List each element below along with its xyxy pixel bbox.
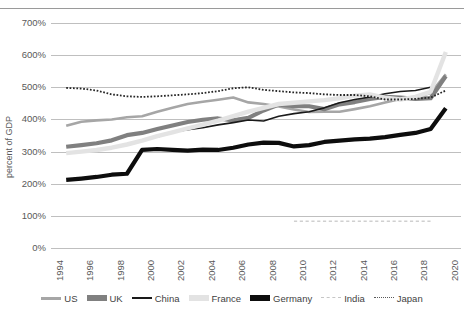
legend-swatch-china-icon xyxy=(132,293,152,303)
x-tick-label: 2004 xyxy=(207,260,217,281)
legend-label: France xyxy=(212,293,242,304)
x-tick-label: 2018 xyxy=(419,260,429,281)
legend-item-us[interactable]: US xyxy=(41,293,77,304)
legend-swatch-uk-icon xyxy=(87,293,107,303)
legend-swatch-japan-icon xyxy=(374,293,394,303)
legend-swatch-france-icon xyxy=(189,293,209,303)
x-tick-label: 2008 xyxy=(268,260,278,281)
y-tick-label: 600% xyxy=(4,50,46,60)
legend-swatch-us-icon xyxy=(41,293,61,303)
x-tick-label: 2016 xyxy=(389,260,399,281)
x-tick-label: 2006 xyxy=(237,260,247,281)
x-tick-label: 1996 xyxy=(85,260,95,281)
x-tick-label: 2010 xyxy=(298,260,308,281)
x-tick-label: 2020 xyxy=(450,260,460,281)
y-tick-label: 300% xyxy=(4,147,46,157)
series-line-china xyxy=(157,87,430,137)
x-tick-label: 2014 xyxy=(359,260,369,281)
x-tick-label: 2012 xyxy=(328,260,338,281)
legend-label: UK xyxy=(110,293,123,304)
y-tick-label: 100% xyxy=(4,211,46,221)
x-tick-label: 2002 xyxy=(176,260,186,281)
legend-label: Germany xyxy=(273,293,312,304)
legend-item-japan[interactable]: Japan xyxy=(374,293,423,304)
y-tick-label: 700% xyxy=(4,18,46,28)
legend-item-china[interactable]: China xyxy=(132,293,180,304)
legend-label: Japan xyxy=(397,293,423,304)
legend-swatch-germany-icon xyxy=(250,293,270,303)
y-tick-label: 400% xyxy=(4,114,46,124)
legend-item-france[interactable]: France xyxy=(189,293,242,304)
gdp-debt-line-chart: percent of GDP 0%100%200%300%400%500%600… xyxy=(0,0,464,311)
y-tick-label: 500% xyxy=(4,82,46,92)
chart-legend: USUKChinaFranceGermanyIndiaJapan xyxy=(0,288,464,308)
legend-item-germany[interactable]: Germany xyxy=(250,293,312,304)
x-tick-label: 1994 xyxy=(55,260,65,281)
y-tick-label: 200% xyxy=(4,179,46,189)
legend-item-uk[interactable]: UK xyxy=(87,293,123,304)
legend-swatch-india-icon xyxy=(321,293,341,303)
legend-label: China xyxy=(155,293,180,304)
y-tick-label: 0% xyxy=(4,243,46,253)
legend-label: India xyxy=(344,293,365,304)
x-tick-label: 1998 xyxy=(116,260,126,281)
legend-label: US xyxy=(64,293,77,304)
x-tick-label: 2000 xyxy=(146,260,156,281)
legend-item-india[interactable]: India xyxy=(321,293,365,304)
